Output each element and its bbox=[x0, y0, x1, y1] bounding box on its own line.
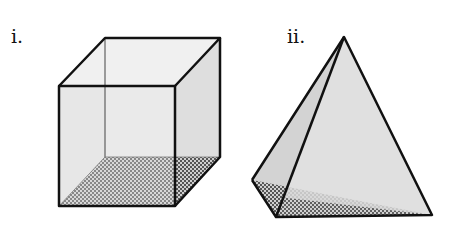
pyramid-figure bbox=[252, 37, 432, 217]
figures-canvas bbox=[0, 0, 458, 227]
cube-figure bbox=[59, 38, 220, 206]
